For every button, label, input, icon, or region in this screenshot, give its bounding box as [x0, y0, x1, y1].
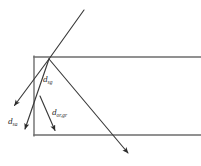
ray-transmitted: [49, 59, 128, 153]
label-d-or-gr-subscript: or,gr: [57, 112, 68, 118]
label-d-sg-subscript: sg: [48, 79, 53, 85]
diagram-canvas: dsg dsa dor,gr: [0, 0, 201, 166]
label-d-sa: dsa: [8, 116, 18, 127]
label-d-sg: dsg: [43, 74, 53, 85]
label-d-or-gr: dor,gr: [52, 107, 68, 118]
ray-diagram-figure: dsg dsa dor,gr: [0, 0, 201, 166]
label-d-sa-subscript: sa: [13, 121, 18, 127]
ray-group: [15, 10, 129, 153]
boundary-rectangle: [34, 56, 201, 135]
ray-d-sg: [25, 59, 49, 129]
label-group: dsg dsa dor,gr: [8, 74, 68, 127]
incident-ray: [49, 10, 84, 59]
